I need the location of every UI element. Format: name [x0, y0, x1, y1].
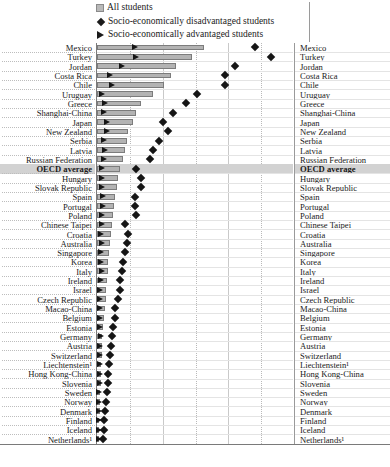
marker-disadvantaged — [120, 220, 129, 229]
marker-disadvantaged — [193, 90, 202, 99]
data-row — [97, 397, 293, 406]
data-row — [97, 136, 293, 145]
marker-disadvantaged — [148, 146, 157, 155]
category-row-left: Serbia — [0, 136, 95, 145]
category-row-right: Greece — [295, 99, 390, 108]
marker-disadvantaged — [107, 332, 116, 341]
category-row-right: Macao-China — [295, 304, 390, 313]
legend-label-disadvantaged: Socio-economically disadvantaged student… — [108, 17, 274, 27]
category-row-left: Croatia — [0, 230, 95, 239]
marker-advantaged — [109, 82, 115, 88]
right-category-labels: MexicoTurkeyJordanCosta RicaChileUruguay… — [294, 43, 390, 444]
marker-advantaged — [97, 315, 103, 321]
category-row-right: Turkey — [295, 52, 390, 61]
category-row-left: Korea — [0, 257, 95, 266]
category-row-right: Liechtenstein¹ — [295, 360, 390, 369]
category-row-left: Hong Kong-China — [0, 369, 95, 378]
data-row — [97, 435, 293, 444]
marker-disadvantaged — [130, 192, 139, 201]
marker-advantaged — [99, 91, 105, 97]
category-row-left: Mexico — [0, 43, 95, 52]
category-row-left: Slovak Republic — [0, 183, 95, 192]
category-row-left: Switzerland — [0, 351, 95, 360]
data-row — [97, 295, 293, 304]
category-row-left: Netherlands¹ — [0, 435, 95, 444]
category-row-left: Estonia — [0, 323, 95, 332]
category-row-left: Iceland — [0, 425, 95, 434]
chart-body: MexicoTurkeyJordanCosta RicaChileUruguay… — [0, 43, 390, 446]
data-row — [97, 369, 293, 378]
marker-disadvantaged — [181, 99, 190, 108]
bar-all-students — [97, 91, 153, 97]
category-row-right: Jordan — [295, 62, 390, 71]
data-row — [97, 239, 293, 248]
marker-disadvantaged — [114, 295, 123, 304]
marker-disadvantaged — [101, 407, 110, 416]
category-row-right: Spain — [295, 192, 390, 201]
marker-disadvantaged — [124, 229, 133, 238]
marker-advantaged — [98, 277, 104, 283]
axis-line — [0, 444, 390, 445]
category-row-left: Czech Republic — [0, 295, 95, 304]
marker-disadvantaged — [104, 360, 113, 369]
data-row — [97, 118, 293, 127]
marker-advantaged — [97, 287, 103, 293]
marker-disadvantaged — [221, 71, 230, 80]
marker-disadvantaged — [266, 52, 275, 61]
marker-advantaged — [97, 343, 103, 349]
marker-advantaged — [100, 193, 106, 199]
data-row — [97, 407, 293, 416]
category-row-right: Australia — [295, 239, 390, 248]
data-row — [97, 267, 293, 276]
data-row — [97, 341, 293, 350]
data-row — [97, 388, 293, 397]
data-row — [97, 379, 293, 388]
category-row-left: Greece — [0, 99, 95, 108]
marker-disadvantaged — [145, 155, 154, 164]
marker-disadvantaged — [109, 323, 118, 332]
marker-advantaged — [98, 249, 104, 255]
bar-swatch-icon — [96, 4, 104, 12]
marker-advantaged — [99, 221, 105, 227]
category-row-right: Hungary — [295, 174, 390, 183]
data-row — [97, 276, 293, 285]
data-row — [97, 155, 293, 164]
category-row-right: Austria — [295, 341, 390, 350]
category-row-right: Netherlands¹ — [295, 435, 390, 444]
marker-disadvantaged — [120, 248, 129, 257]
marker-advantaged — [98, 333, 104, 339]
category-row-left: Macao-China — [0, 304, 95, 313]
marker-disadvantaged — [122, 239, 131, 248]
data-row — [97, 80, 293, 89]
bar-all-students — [97, 54, 192, 60]
data-row — [97, 43, 293, 52]
data-row — [97, 257, 293, 266]
marker-advantaged — [102, 147, 108, 153]
marker-disadvantaged — [137, 174, 146, 183]
bar-all-students — [97, 147, 125, 153]
category-row-right: Norway — [295, 397, 390, 406]
category-row-left: Portugal — [0, 202, 95, 211]
marker-advantaged — [97, 380, 103, 386]
triangle-marker-icon — [96, 31, 105, 40]
marker-disadvantaged — [102, 397, 111, 406]
bar-all-students — [97, 82, 164, 88]
plot-area — [96, 43, 293, 444]
data-row — [97, 192, 293, 201]
data-row — [97, 304, 293, 313]
category-row-right: New Zealand — [295, 127, 390, 136]
marker-disadvantaged — [168, 108, 177, 117]
data-row — [97, 90, 293, 99]
marker-advantaged — [97, 361, 103, 367]
marker-advantaged — [133, 54, 139, 60]
marker-advantaged — [97, 296, 103, 302]
marker-advantaged — [107, 72, 113, 78]
category-row-left: Poland — [0, 211, 95, 220]
category-row-left: Hungary — [0, 174, 95, 183]
marker-advantaged — [97, 324, 103, 330]
data-row — [97, 248, 293, 257]
data-row — [97, 425, 293, 434]
data-row — [97, 52, 293, 61]
category-row-left: Turkey — [0, 52, 95, 61]
category-row-left: Chile — [0, 80, 95, 89]
